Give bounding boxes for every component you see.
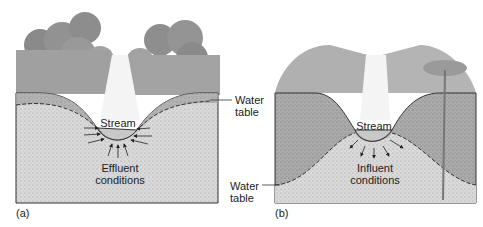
condition-label-b-line1: Influent xyxy=(345,162,405,174)
stream-label-a: Stream xyxy=(100,117,136,129)
water-table-label-b-line1: Water xyxy=(230,180,259,192)
stream-label-b: Stream xyxy=(356,120,392,132)
panel-label-b: (b) xyxy=(275,207,288,219)
water-table-label-b-line2: table xyxy=(230,192,254,204)
panel-label-a: (a) xyxy=(16,207,29,219)
trees-left-icon xyxy=(16,12,114,94)
water-table-label-a-line2: table xyxy=(235,106,259,118)
condition-label-a-line2: conditions xyxy=(90,174,150,186)
condition-label-a-line1: Effluent xyxy=(90,162,150,174)
trees-right-icon xyxy=(126,20,220,95)
condition-label-b-line2: conditions xyxy=(345,174,405,186)
water-table-label-a-line1: Water xyxy=(235,94,264,106)
